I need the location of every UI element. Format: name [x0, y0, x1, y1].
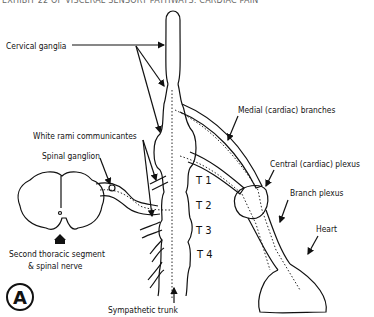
panel-letter-badge: A — [6, 283, 34, 311]
spinal-segment-pointer — [54, 234, 66, 244]
ramus-4 — [148, 262, 164, 288]
label-white-rami: White rami communicantes — [33, 130, 137, 141]
label-sympathetic-trunk: Sympathetic trunk — [108, 304, 178, 315]
segment-t2: T 2 — [196, 200, 212, 211]
label-second-thoracic-2: & spinal nerve — [28, 260, 82, 271]
segment-t1: T 1 — [196, 175, 212, 186]
label-spinal-ganglion: Spinal ganglion — [42, 150, 100, 161]
label-branch-plexus: Branch plexus — [290, 187, 343, 198]
label-medial-branches: Medial (cardiac) branches — [238, 104, 335, 115]
medial-cardiac-branch — [180, 104, 262, 188]
label-central-plexus: Central (cardiac) plexus — [270, 158, 360, 169]
panel-letter: A — [13, 287, 27, 308]
label-cervical-ganglia: Cervical ganglia — [6, 40, 66, 51]
segment-t4: T 4 — [197, 249, 213, 260]
segment-t3: T 3 — [196, 225, 212, 236]
superior-cervical-ganglion — [166, 11, 180, 84]
heart-outline — [259, 264, 326, 313]
white-ramus-1 — [150, 176, 168, 190]
label-second-thoracic-1: Second thoracic segment — [9, 248, 105, 259]
label-heart: Heart — [316, 223, 337, 234]
